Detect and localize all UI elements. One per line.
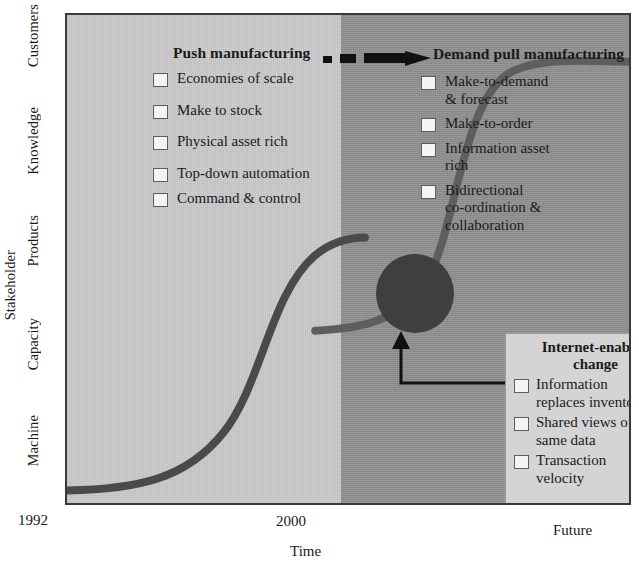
square-bullet-icon — [153, 193, 168, 207]
list-item: Transaction velocity — [512, 452, 631, 487]
list-item: Bidirectional co-ordination & collaborat… — [419, 182, 609, 235]
callout-items-list: Information replaces inventory Shared vi… — [512, 376, 631, 487]
pull-item-0: Make-to-demand & forecast — [445, 73, 609, 108]
list-item: Top-down automation — [151, 165, 401, 183]
list-item: Physical asset rich — [151, 133, 401, 151]
push-item-2: Physical asset rich — [177, 133, 401, 151]
square-bullet-icon — [153, 136, 168, 150]
square-bullet-icon — [514, 417, 529, 431]
x-tick-label-1992: 1992 — [18, 512, 48, 529]
y-tick-label-capacity: Capacity — [25, 318, 42, 370]
push-item-0: Economies of scale — [177, 70, 401, 88]
callout-title: Internet-enabled change — [512, 339, 631, 373]
x-axis-title: Time — [290, 543, 321, 560]
square-bullet-icon — [153, 73, 168, 87]
list-item: Information replaces inventory — [512, 376, 631, 411]
list-item: Shared views of same data — [512, 414, 631, 449]
callout-item-0: Information replaces inventory — [536, 376, 631, 411]
list-item: Make-to-order — [419, 115, 609, 133]
list-item: Command & control — [151, 190, 401, 208]
pull-item-3: Bidirectional co-ordination & collaborat… — [445, 182, 609, 235]
leader-arrow-icon — [392, 331, 517, 391]
push-item-4: Command & control — [177, 190, 401, 208]
y-tick-label-customers: Customers — [25, 4, 42, 67]
list-item: Information asset rich — [419, 140, 609, 175]
list-item: Economies of scale — [151, 70, 401, 88]
x-tick-label-future: Future — [553, 522, 592, 539]
pull-item-1: Make-to-order — [445, 115, 609, 133]
square-bullet-icon — [421, 185, 436, 199]
internet-enabled-change-callout: Internet-enabled change Information repl… — [505, 333, 631, 505]
square-bullet-icon — [153, 168, 168, 182]
square-bullet-icon — [514, 379, 529, 393]
y-tick-label-machine: Machine — [25, 415, 42, 466]
square-bullet-icon — [153, 105, 168, 119]
push-s-curve — [67, 237, 365, 490]
y-axis-title: Stakeholder — [2, 250, 19, 320]
square-bullet-icon — [421, 118, 436, 132]
chart-plot-area: Push manufacturing Economies of scale Ma… — [65, 13, 631, 505]
transition-point-marker — [376, 254, 454, 333]
y-tick-label-knowledge: Knowledge — [25, 107, 42, 175]
dashed-arrow-icon — [323, 51, 431, 67]
push-item-3: Top-down automation — [177, 165, 401, 183]
push-item-1: Make to stock — [177, 102, 401, 120]
list-item: Make-to-demand & forecast — [419, 73, 609, 108]
square-bullet-icon — [421, 143, 436, 157]
square-bullet-icon — [514, 455, 529, 469]
callout-item-2: Transaction velocity — [536, 452, 631, 487]
pull-item-2: Information asset rich — [445, 140, 609, 175]
callout-item-1: Shared views of same data — [536, 414, 631, 449]
list-item: Make to stock — [151, 102, 401, 120]
y-tick-label-products: Products — [25, 215, 42, 267]
x-tick-label-2000: 2000 — [276, 513, 306, 530]
square-bullet-icon — [421, 76, 436, 90]
push-items-list: Economies of scale Make to stock Physica… — [151, 70, 401, 222]
push-section-heading: Push manufacturing — [173, 44, 310, 62]
demand-pull-items-list: Make-to-demand & forecast Make-to-order … — [419, 73, 609, 241]
demand-pull-section-heading: Demand pull manufacturing — [433, 45, 624, 63]
